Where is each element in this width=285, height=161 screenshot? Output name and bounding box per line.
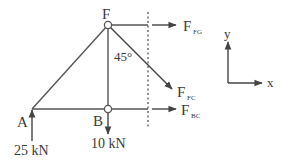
- joint-f: [104, 21, 111, 28]
- member-af: [32, 25, 108, 109]
- force-bc-subscript: BC: [191, 112, 201, 120]
- load-b-label: 10 kN: [91, 136, 126, 151]
- joint-b: [104, 105, 111, 112]
- force-fg-label: F: [183, 18, 191, 34]
- reaction-a-label: 25 kN: [14, 143, 49, 158]
- joint-b-label: B: [93, 113, 103, 129]
- joint-a-label: A: [17, 114, 28, 130]
- force-fc-subscript: FC: [187, 94, 196, 102]
- force-fc-label: F: [177, 84, 185, 100]
- angle-label: 45°: [114, 49, 132, 64]
- truss-section-diagram: F B A 45° F FG F FC F BC 25 kN 10 kN y x: [0, 0, 285, 161]
- joint-f-label: F: [102, 6, 110, 22]
- force-bc-label: F: [181, 102, 189, 118]
- y-axis-label: y: [224, 26, 231, 41]
- force-fg-subscript: FG: [193, 28, 202, 36]
- x-axis-label: x: [267, 75, 274, 90]
